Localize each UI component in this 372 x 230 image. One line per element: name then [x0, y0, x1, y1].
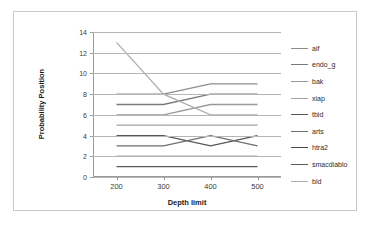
legend-item-bid[interactable]: bid [291, 173, 369, 190]
legend-item-tbid[interactable]: tbid [291, 106, 369, 123]
y-tick-label: 8 [63, 91, 87, 98]
legend-swatch-icon [291, 64, 308, 65]
x-tick-mark [258, 177, 259, 180]
legend-label: htra2 [312, 144, 328, 151]
y-tick-mark [90, 115, 93, 116]
y-tick-label: 4 [63, 132, 87, 139]
legend-swatch-icon [291, 98, 308, 99]
legend-item-arts[interactable]: arts [291, 123, 369, 140]
y-tick-label: 12 [63, 49, 87, 56]
plot-area: 02468101214 200300400500 [93, 32, 281, 177]
legend-item-smacdiablo[interactable]: smacdiablo [291, 156, 369, 173]
legend-label: smacdiablo [312, 161, 347, 168]
legend-label: bak [312, 78, 323, 85]
y-tick-label: 6 [63, 111, 87, 118]
legend-swatch-icon [291, 181, 308, 182]
y-tick-mark [90, 73, 93, 74]
legend-label: arts [312, 128, 324, 135]
y-tick-label: 10 [63, 70, 87, 77]
y-tick-mark [90, 156, 93, 157]
x-tick-label: 500 [251, 182, 264, 191]
gridline [93, 177, 281, 178]
legend-swatch-icon [291, 147, 308, 148]
gridline [93, 32, 281, 33]
legend-item-aif[interactable]: aif [291, 40, 369, 57]
chart-figure: Probability Position Depth limit 0246810… [0, 0, 372, 230]
y-tick-label: 2 [63, 153, 87, 160]
x-tick-mark [164, 177, 165, 180]
gridline [93, 136, 281, 137]
legend-label: tbid [312, 111, 323, 118]
y-axis-title: Probability Position [37, 69, 46, 139]
y-tick-mark [90, 94, 93, 95]
legend-label: endo_g [312, 61, 335, 68]
y-tick-mark [90, 136, 93, 137]
legend-item-endo_g[interactable]: endo_g [291, 57, 369, 74]
legend-swatch-icon [291, 164, 308, 165]
x-tick-label: 300 [157, 182, 170, 191]
chart-legend: aifendo_gbakxiaptbidartshtra2smacdiablob… [291, 40, 369, 189]
x-tick-label: 400 [204, 182, 217, 191]
x-tick-mark [211, 177, 212, 180]
gridline [93, 73, 281, 74]
x-tick-label: 200 [110, 182, 123, 191]
x-tick-mark [117, 177, 118, 180]
legend-item-bak[interactable]: bak [291, 73, 369, 90]
plot-border [93, 32, 281, 177]
legend-swatch-icon [291, 48, 308, 49]
legend-label: xiap [312, 95, 325, 102]
legend-label: bid [312, 178, 321, 185]
y-tick-label: 14 [63, 29, 87, 36]
y-tick-mark [90, 32, 93, 33]
legend-item-htra2[interactable]: htra2 [291, 140, 369, 157]
gridline [93, 94, 281, 95]
legend-swatch-icon [291, 114, 308, 115]
chart-frame: Probability Position Depth limit 0246810… [13, 11, 357, 211]
y-tick-label: 0 [63, 174, 87, 181]
legend-swatch-icon [291, 81, 308, 82]
y-tick-mark [90, 177, 93, 178]
legend-item-xiap[interactable]: xiap [291, 90, 369, 107]
legend-swatch-icon [291, 131, 308, 132]
gridline [93, 156, 281, 157]
gridline [93, 53, 281, 54]
gridline [93, 115, 281, 116]
x-axis-title: Depth limit [168, 198, 207, 207]
y-tick-mark [90, 53, 93, 54]
legend-label: aif [312, 45, 319, 52]
